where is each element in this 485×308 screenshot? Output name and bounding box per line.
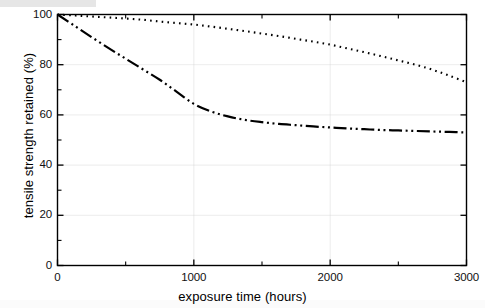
x-tick-label: 3000 <box>437 272 485 284</box>
x-tick-label: 1000 <box>164 272 224 284</box>
axis-ticks <box>58 15 467 266</box>
chart-figure: 020406080100 0100020003000 exposure time… <box>0 0 485 308</box>
x-axis-label: exposure time (hours) <box>0 289 485 304</box>
plot-area <box>0 0 485 308</box>
x-tick-label: 2000 <box>300 272 360 284</box>
x-tick-label: 0 <box>28 272 88 284</box>
y-axis-label: tensile strength retained (%) <box>21 6 36 266</box>
axis-frame <box>58 15 467 266</box>
gridlines <box>58 15 467 266</box>
series-dotted-curve <box>58 15 467 83</box>
